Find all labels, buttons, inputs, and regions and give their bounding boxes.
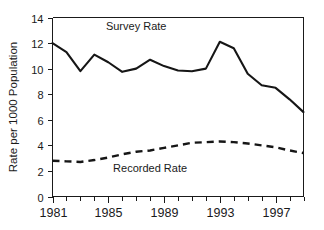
y-tick-label: 0 (37, 192, 43, 204)
series-label-recorded-rate: Recorded Rate (113, 162, 187, 174)
y-tick-label: 4 (37, 140, 43, 152)
y-tick-label: 12 (31, 38, 43, 50)
y-tick-label: 6 (37, 115, 43, 127)
y-tick-label: 10 (31, 64, 43, 76)
x-tick-label: 1985 (95, 206, 123, 220)
x-tick-label: 1993 (207, 206, 235, 220)
y-tick-label: 14 (31, 13, 43, 25)
chart-background (0, 0, 324, 230)
y-axis-title: Rate per 1000 Population (7, 42, 19, 172)
x-tick-label: 1981 (40, 206, 68, 220)
chart-canvas: 02468101214 19811985198919931997 Survey … (0, 0, 324, 230)
y-tick-label: 8 (37, 89, 43, 101)
y-tick-label: 2 (37, 166, 43, 178)
series-label-survey-rate: Survey Rate (106, 20, 167, 32)
x-tick-label: 1997 (263, 206, 291, 220)
x-tick-label: 1989 (151, 206, 179, 220)
line-chart: 02468101214 19811985198919931997 Survey … (0, 0, 324, 230)
